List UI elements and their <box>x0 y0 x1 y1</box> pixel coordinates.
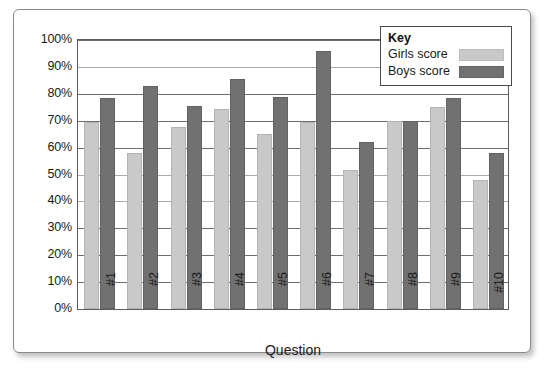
x-axis-tick-label: #2 <box>148 272 161 312</box>
y-axis-tick-label: 30% <box>26 221 72 234</box>
bar <box>214 109 229 309</box>
y-axis-tick-label: 0% <box>26 302 72 315</box>
x-axis-tick-label: #7 <box>364 272 377 312</box>
y-axis-tick-label: 20% <box>26 248 72 261</box>
y-axis-tick-label: 40% <box>26 194 72 207</box>
x-axis-tick-label: #8 <box>407 272 420 312</box>
x-axis-tick-label: #10 <box>493 272 506 312</box>
y-axis-tick-label: 80% <box>26 87 72 100</box>
y-axis-tick-label: 50% <box>26 168 72 181</box>
bar <box>300 122 315 309</box>
legend-entry-label: Boys score <box>388 64 450 80</box>
x-axis-tick-label: #1 <box>105 272 118 312</box>
legend-rows: Girls scoreBoys score <box>388 47 504 79</box>
legend-color-swatch <box>459 49 504 61</box>
legend-entry: Girls score <box>388 47 504 63</box>
bar <box>387 121 402 309</box>
legend-entry: Boys score <box>388 64 504 80</box>
y-axis-tick-label: 10% <box>26 275 72 288</box>
bar <box>343 170 358 309</box>
x-axis-tick-label: #6 <box>321 272 334 312</box>
bar <box>127 153 142 309</box>
bar <box>316 51 331 309</box>
x-axis-tick-label: #4 <box>234 272 247 312</box>
y-axis-tick-label: 60% <box>26 141 72 154</box>
y-axis-tick-label: 70% <box>26 114 72 127</box>
y-axis-tick-label: 100% <box>26 33 72 46</box>
legend-color-swatch <box>459 66 504 78</box>
x-axis-tick-label: #9 <box>450 272 463 312</box>
chart-screenshot: 100%90%80%70%60%50%40%30%20%10%0% #1#2#3… <box>0 0 549 372</box>
legend-title: Key <box>388 31 504 45</box>
bar <box>473 180 488 309</box>
bar <box>84 122 99 309</box>
x-axis-title: Question <box>77 342 509 358</box>
bar <box>430 107 445 309</box>
y-axis: 100%90%80%70%60%50%40%30%20%10%0% <box>22 39 72 310</box>
legend: Key Girls scoreBoys score <box>380 26 512 86</box>
y-axis-tick-label: 90% <box>26 60 72 73</box>
legend-entry-label: Girls score <box>388 47 448 63</box>
x-axis-tick-label: #3 <box>191 272 204 312</box>
x-axis-tick-label: #5 <box>277 272 290 312</box>
bar <box>257 134 272 309</box>
bar <box>171 127 186 309</box>
chart-card: 100%90%80%70%60%50%40%30%20%10%0% #1#2#3… <box>13 9 531 353</box>
